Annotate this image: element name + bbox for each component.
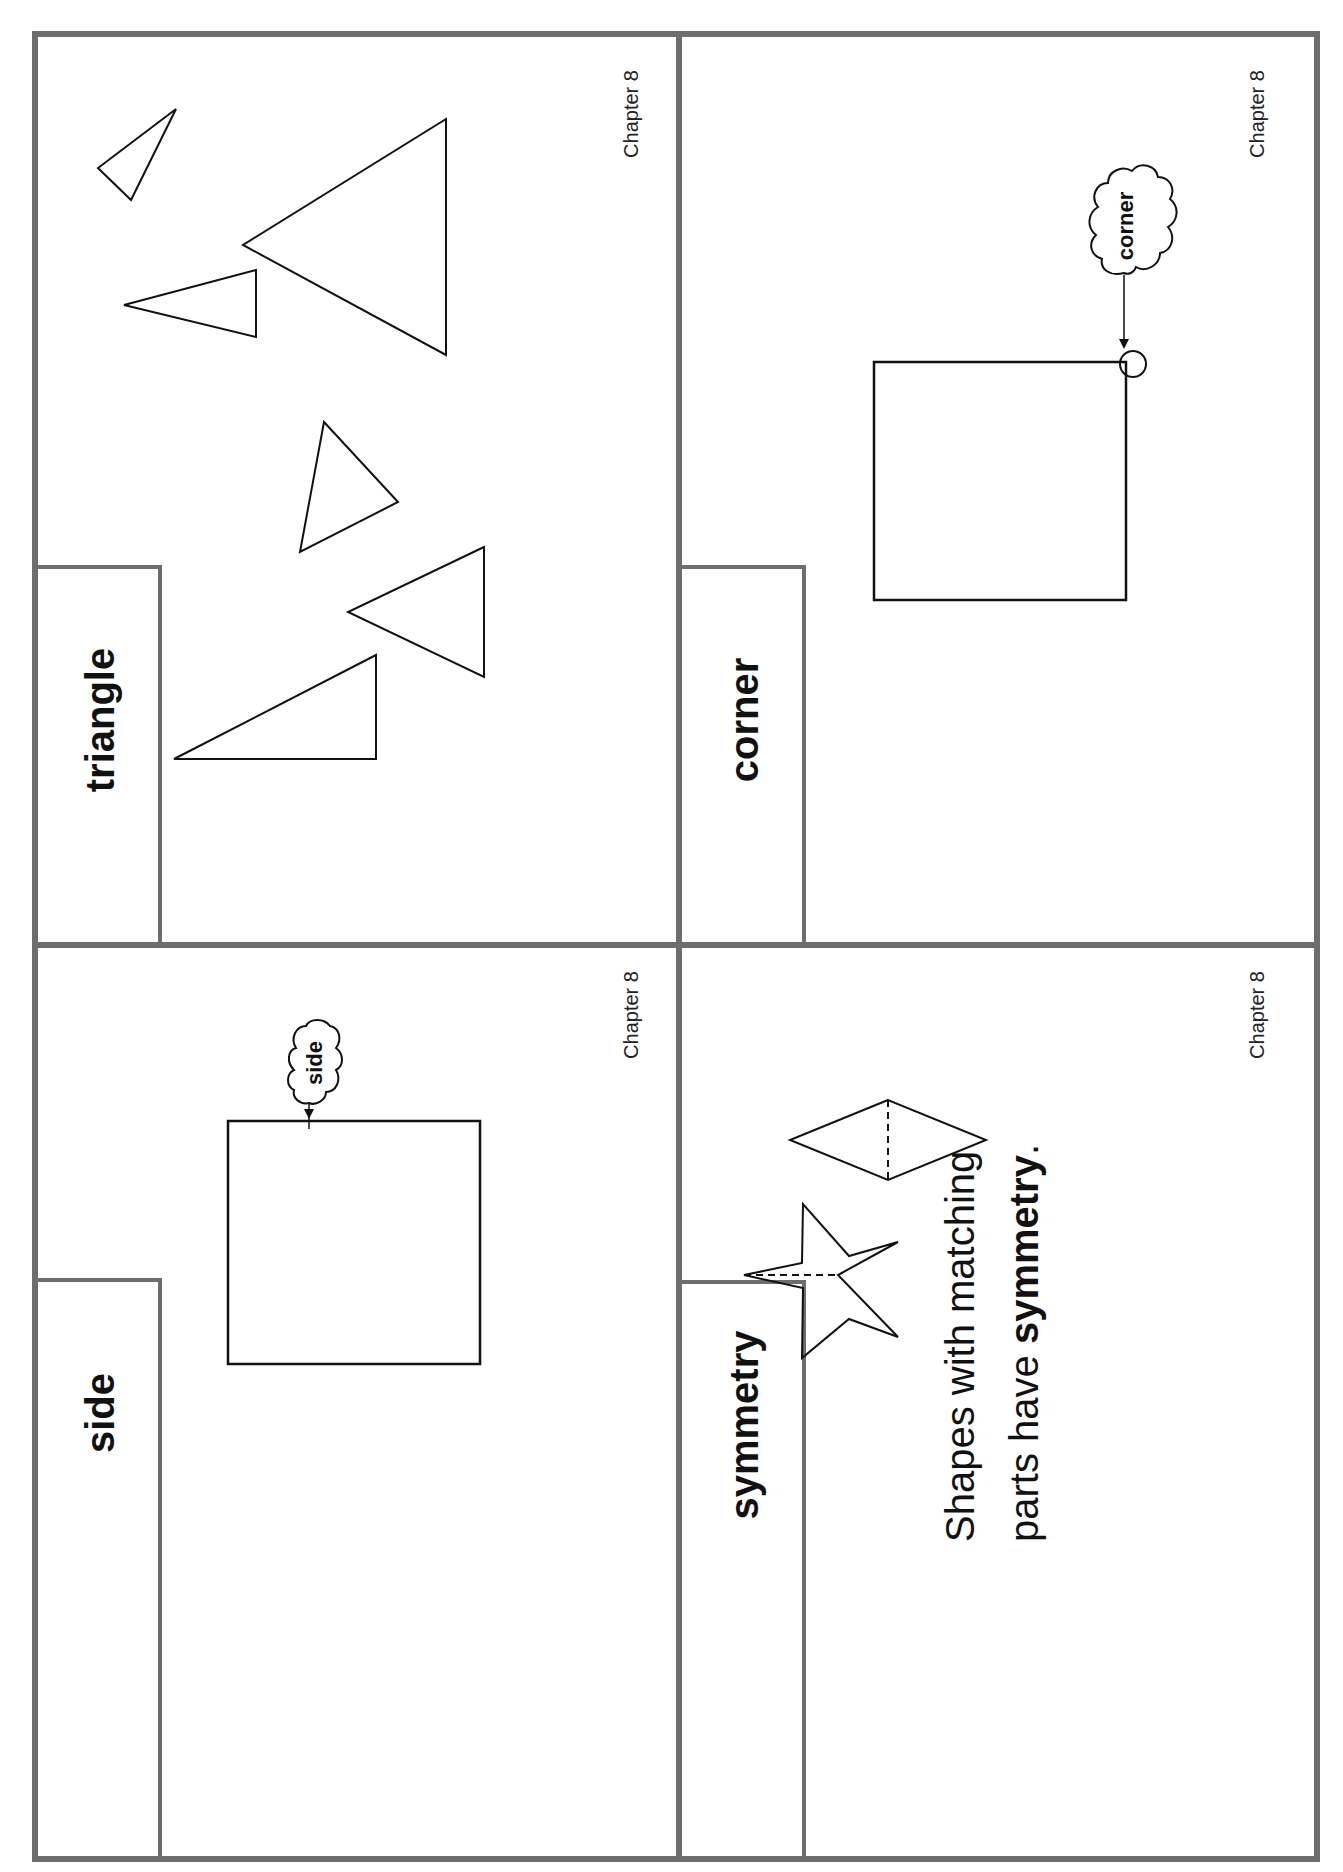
corner-circle-icon [1120, 351, 1146, 377]
card-corner: corner Chapter 8 corner [682, 37, 1314, 942]
arrow-down-icon [304, 1109, 314, 1119]
definition-line-2-prefix: parts have [1002, 1344, 1046, 1542]
triangles-illustration [38, 37, 676, 942]
card-symmetry: symmetry Chapter 8 Shapes with matching … [682, 948, 1314, 1856]
card-side: side Chapter 8 side [38, 948, 676, 1856]
callout-text: corner [1111, 186, 1141, 266]
definition-line-1: Shapes with matching [928, 1062, 992, 1542]
definition-line-2-suffix: . [1002, 1144, 1046, 1155]
callout-text: side [300, 1033, 330, 1093]
star-shape [744, 1204, 898, 1358]
definition-key-term: symmetry [1002, 1155, 1046, 1344]
symmetry-definition: Shapes with matching parts have symmetry… [928, 1062, 1056, 1542]
side-illustration [38, 948, 676, 1856]
arrow-down-icon [1119, 339, 1129, 349]
definition-line-2: parts have symmetry. [992, 1062, 1056, 1542]
corner-illustration [682, 37, 1314, 942]
card-triangle: triangle Chapter 8 [38, 37, 676, 942]
